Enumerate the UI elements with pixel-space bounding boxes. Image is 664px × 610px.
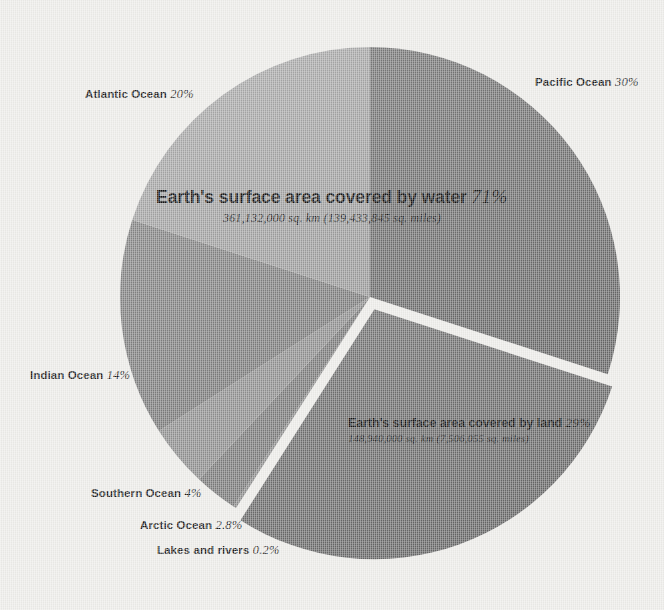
label-pacific-ocean: Pacific Ocean 30%	[535, 75, 639, 90]
pie-slices-group	[120, 47, 620, 559]
callout-water-head: Earth's surface area covered by water 71…	[0, 186, 664, 208]
callout-land-sub: 148,940,000 sq. km (7,506,055 sq. miles)	[209, 433, 664, 444]
label-southern-ocean-pct: 4%	[185, 486, 202, 500]
label-indian-ocean-pct: 14%	[107, 368, 131, 382]
callout-land-pct: 29%	[565, 415, 590, 430]
label-lakes-and-rivers: Lakes and rivers 0.2%	[157, 543, 280, 558]
label-arctic-ocean-pct: 2.8%	[215, 518, 242, 532]
label-atlantic-ocean-name: Atlantic Ocean	[85, 88, 167, 100]
label-lakes-and-rivers-pct: 0.2%	[253, 543, 280, 557]
callout-water: Earth's surface area covered by water 71…	[0, 186, 664, 226]
callout-land-head: Earth's surface area covered by land 29%	[209, 415, 664, 431]
label-atlantic-ocean-pct: 20%	[170, 87, 194, 101]
label-arctic-ocean-name: Arctic Ocean	[140, 519, 212, 531]
label-southern-ocean-name: Southern Ocean	[91, 487, 181, 499]
label-southern-ocean: Southern Ocean 4%	[91, 486, 202, 501]
label-arctic-ocean: Arctic Ocean 2.8%	[140, 518, 242, 533]
label-pacific-ocean-pct: 30%	[615, 75, 639, 89]
callout-land: Earth's surface area covered by land 29%…	[209, 415, 664, 444]
label-indian-ocean: Indian Ocean 14%	[30, 368, 130, 383]
callout-water-title: Earth's surface area covered by water	[156, 187, 467, 207]
callout-land-title: Earth's surface area covered by land	[348, 416, 562, 430]
label-pacific-ocean-name: Pacific Ocean	[535, 76, 612, 88]
pie-chart-stage: Pacific Ocean 30% Atlantic Ocean 20% Ind…	[0, 0, 664, 610]
label-indian-ocean-name: Indian Ocean	[30, 369, 103, 381]
label-lakes-and-rivers-name: Lakes and rivers	[157, 544, 249, 556]
label-atlantic-ocean: Atlantic Ocean 20%	[85, 87, 194, 102]
callout-water-sub: 361,132,000 sq. km (139,433,845 sq. mile…	[0, 211, 664, 226]
callout-water-pct: 71%	[472, 186, 508, 207]
